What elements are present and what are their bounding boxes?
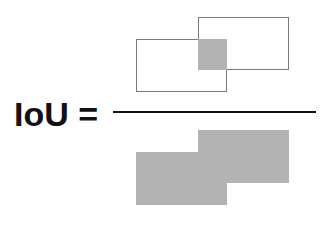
intersection-area (198, 39, 227, 70)
iou-label: IoU = (14, 96, 98, 132)
fraction-bar (113, 111, 316, 113)
union-box-b (136, 152, 227, 205)
